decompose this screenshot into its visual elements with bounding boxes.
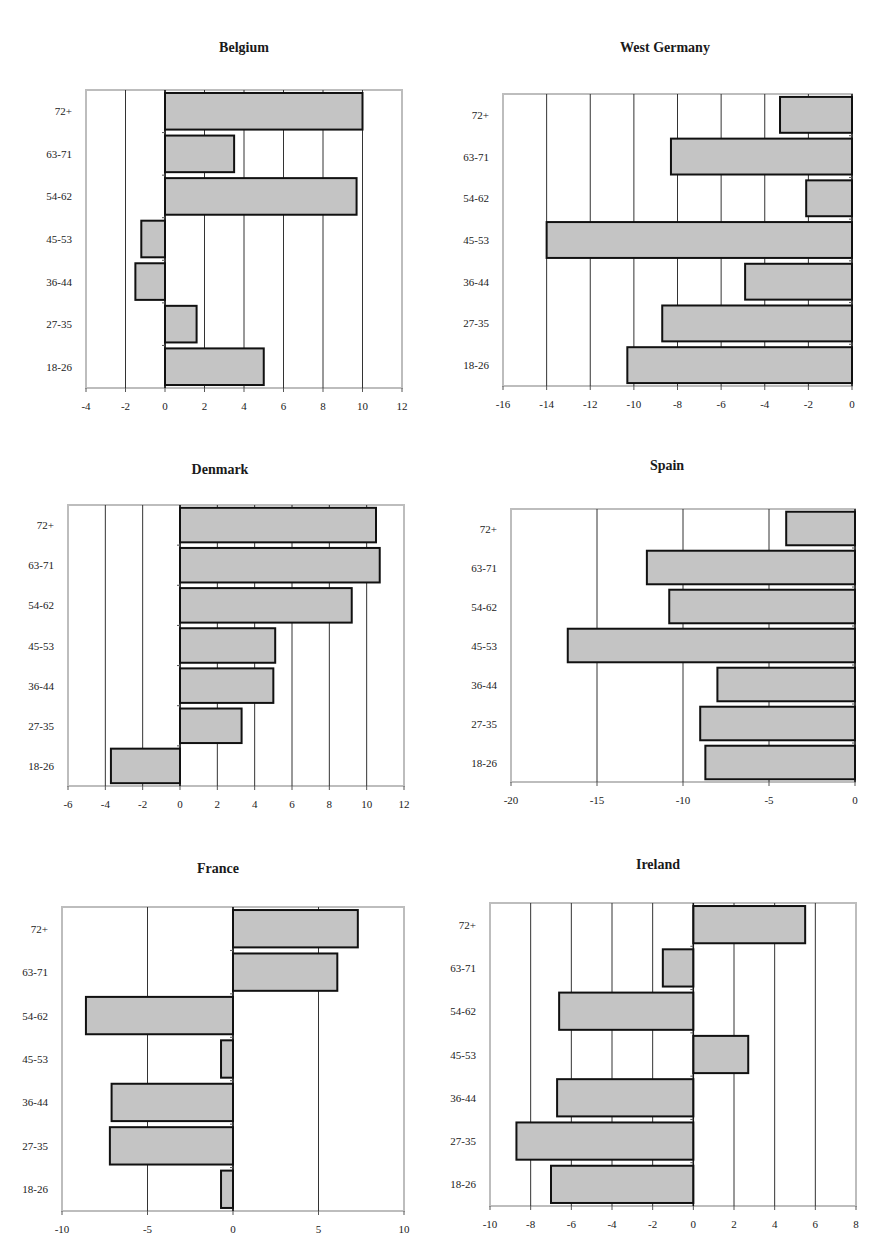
category-label: 72+ [37,519,54,531]
category-label: 45-53 [28,640,54,652]
x-tick-label: 0 [691,1218,697,1230]
chart-title: Belgium [219,40,269,56]
category-label: 45-53 [46,233,72,245]
bar-45-53 [180,628,275,663]
chart-title: West Germany [620,40,710,56]
x-tick-label: -10 [483,1218,498,1230]
category-label: 54-62 [450,1005,476,1017]
x-tick-label: -10 [676,794,691,806]
category-label: 72+ [472,109,489,121]
bar-72+ [233,910,358,947]
bar-72+ [786,512,855,546]
category-label: 54-62 [463,192,489,204]
chart-west-germany: -16-14-12-10-8-6-4-2072+63-7154-6245-533… [463,94,855,410]
category-label: 54-62 [28,599,54,611]
x-tick-label: 8 [853,1218,859,1230]
x-tick-label: -4 [101,798,111,810]
x-tick-label: 2 [215,798,221,810]
x-tick-label: 4 [241,400,247,412]
chart-belgium: -4-202468101272+63-7154-6245-5336-4427-3… [46,90,407,412]
category-label: 72+ [55,105,72,117]
bar-63-71 [180,548,380,583]
bar-18-26 [627,347,852,383]
bar-18-26 [705,746,855,780]
x-tick-label: -6 [717,398,727,410]
category-label: 45-53 [463,234,489,246]
category-label: 27-35 [22,1140,48,1152]
x-tick-label: 10 [399,1223,411,1235]
category-label: 72+ [480,523,497,535]
bar-27-35 [180,709,242,744]
bar-27-35 [516,1122,693,1159]
category-label: 27-35 [463,317,489,329]
x-tick-label: -12 [583,398,598,410]
bar-27-35 [662,305,852,341]
x-tick-label: 8 [320,400,326,412]
bar-54-62 [806,180,852,216]
bar-36-44 [557,1079,693,1116]
bar-36-44 [717,668,855,702]
bar-18-26 [111,749,180,784]
category-label: 72+ [31,923,48,935]
bar-72+ [693,906,805,943]
x-tick-label: 2 [202,400,208,412]
category-label: 45-53 [471,640,497,652]
bar-54-62 [165,178,357,215]
category-label: 54-62 [471,601,497,613]
x-tick-label: 12 [397,400,408,412]
bar-45-53 [693,1036,748,1073]
bar-36-44 [135,263,165,300]
category-label: 36-44 [28,680,54,692]
category-label: 36-44 [46,276,72,288]
category-label: 18-26 [28,760,54,772]
chart-spain: -20-15-10-5072+63-7154-6245-5336-4427-35… [471,509,858,806]
chart-france: -10-5051072+63-7154-6245-5336-4427-3518-… [22,907,410,1235]
x-tick-label: -2 [804,398,813,410]
category-label: 36-44 [450,1092,476,1104]
category-label: 27-35 [46,318,72,330]
x-tick-label: 10 [361,798,373,810]
bar-36-44 [745,264,852,300]
category-label: 36-44 [463,276,489,288]
x-tick-label: 10 [357,400,369,412]
chart-title: Ireland [636,857,680,873]
category-label: 63-71 [28,559,54,571]
category-label: 18-26 [463,359,489,371]
chart-ireland: -10-8-6-4-20246872+63-7154-6245-5336-442… [450,903,859,1230]
x-tick-label: 4 [772,1218,778,1230]
bar-27-35 [165,306,197,343]
charts-svg: -4-202468101272+63-7154-6245-5336-4427-3… [0,0,891,1240]
category-label: 63-71 [450,962,476,974]
x-tick-label: 6 [813,1218,819,1230]
x-tick-label: 0 [852,794,858,806]
x-tick-label: -2 [121,400,130,412]
x-tick-label: -5 [764,794,774,806]
x-tick-label: -14 [539,398,554,410]
bar-54-62 [180,588,352,623]
x-tick-label: -20 [504,794,519,806]
bar-45-53 [221,1040,233,1077]
chart-title: Denmark [192,462,249,478]
category-label: 63-71 [46,148,72,160]
bar-63-71 [233,953,337,990]
bar-18-26 [165,348,264,385]
bar-27-35 [700,707,855,741]
bar-36-44 [112,1084,233,1121]
x-tick-label: -4 [607,1218,617,1230]
x-tick-label: 0 [849,398,855,410]
x-tick-label: -10 [627,398,642,410]
category-label: 27-35 [471,718,497,730]
x-tick-label: -6 [567,1218,577,1230]
x-tick-label: 6 [281,400,287,412]
x-tick-label: 0 [230,1223,236,1235]
category-label: 18-26 [22,1183,48,1195]
bar-72+ [780,97,852,133]
x-tick-label: -5 [143,1223,153,1235]
x-tick-label: -15 [590,794,605,806]
bar-54-62 [669,590,855,624]
bar-36-44 [180,668,273,703]
bar-63-71 [165,136,234,173]
x-tick-label: -4 [760,398,770,410]
category-label: 27-35 [450,1135,476,1147]
x-tick-label: 12 [399,798,410,810]
